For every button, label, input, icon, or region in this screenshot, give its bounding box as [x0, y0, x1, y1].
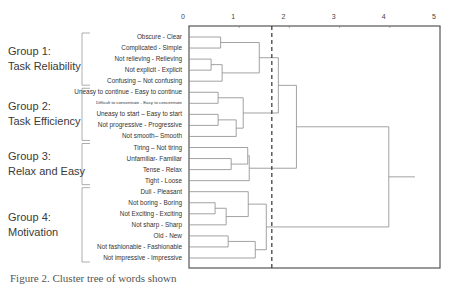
leaf-label: Old - New [154, 232, 182, 240]
group-name: Group 4: [8, 210, 58, 225]
leaf-label: Not progressive - Progressive [98, 121, 182, 129]
leaf-label: Tense - Relax [143, 166, 182, 174]
group-bracket [82, 33, 90, 85]
group-subtitle: Motivation [8, 225, 58, 240]
leaf-label: Obscure - Clear [137, 33, 182, 41]
leaf-label: Not explicit - Explicit [125, 66, 182, 74]
group-label: Group 3:Relax and Easy [8, 149, 85, 179]
leaf-label: Unfamiliar- Familiar [127, 155, 182, 163]
leaf-label: Uneasy to start – Easy to start [96, 110, 182, 118]
x-tick-label: 2 [281, 13, 285, 20]
group-label: Group 4:Motivation [8, 210, 58, 240]
x-tick-label: 5 [432, 13, 436, 20]
leaf-label: Not smooth– Smooth [122, 132, 182, 140]
x-tick-label: 4 [382, 13, 386, 20]
leaf-label: Not Exciting - Exciting [120, 210, 182, 218]
group-subtitle: Task Efficiency [8, 114, 81, 129]
group-subtitle: Task Reliability [8, 59, 81, 74]
leaf-label: Not sharp - Sharp [132, 221, 182, 229]
group-name: Group 2: [8, 99, 81, 114]
leaf-label: Not relieving - Relieving [115, 55, 183, 63]
leaf-label: Not boring - Boring [128, 199, 182, 207]
leaf-label: Complicated - Simple [121, 44, 182, 52]
figure-caption: Figure 2. Cluster tree of words shown [10, 272, 177, 284]
group-label: Group 1:Task Reliability [8, 44, 81, 74]
x-tick-label: 0 [181, 13, 185, 20]
leaf-label: Dull - Pleasant [140, 188, 182, 196]
leaf-label: Tight - Loose [145, 177, 182, 185]
x-tick-label: 1 [231, 13, 235, 20]
leaf-label: Not impressive - Impressive [103, 254, 182, 262]
group-name: Group 3: [8, 149, 85, 164]
group-name: Group 1: [8, 44, 81, 59]
leaf-label: Tiring – Not tiring [134, 144, 182, 152]
leaf-label: Not fashionable - Fashionable [97, 243, 182, 251]
group-label: Group 2:Task Efficiency [8, 99, 81, 129]
leaf-label: Uneasy to continue - Easy to continue [74, 88, 182, 96]
x-tick-label: 3 [332, 13, 336, 20]
group-subtitle: Relax and Easy [8, 164, 85, 179]
leaf-label: Confusing – Not confusing [107, 77, 182, 85]
plot-frame [189, 26, 440, 268]
leaf-label: Difficult to concentrate - Easy to conce… [96, 99, 182, 107]
group-bracket [82, 188, 90, 262]
